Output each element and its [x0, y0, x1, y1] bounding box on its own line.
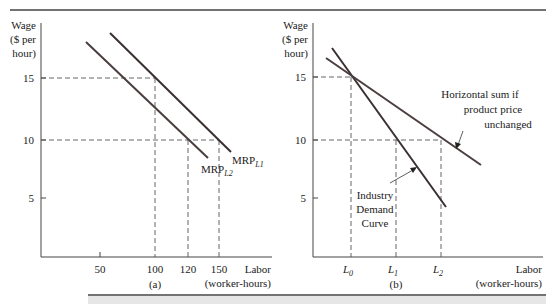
x-tick-100: 100 — [147, 263, 164, 275]
panel-b-caption: (b) — [390, 278, 403, 291]
y-axis-label-line2: ($ per — [282, 33, 308, 46]
horizontal-sum-annotation-line2: product price — [464, 103, 522, 115]
x-tick-l0: L0 — [342, 263, 353, 278]
figure: Wage ($ per hour) 15 10 5 50 100 120 150… — [0, 0, 556, 304]
y-tick-10: 10 — [295, 134, 307, 146]
y-axis-label-line1: Wage — [11, 19, 36, 31]
x-tick-50: 50 — [95, 263, 107, 275]
panel-b: Wage ($ per hour) 15 10 5 L0 L1 L2 Labor… — [282, 19, 544, 291]
x-tick-150: 150 — [211, 263, 228, 275]
bottom-band — [88, 296, 546, 304]
horizontal-sum-annotation-line3: unchanged — [484, 118, 532, 130]
y-tick-10: 10 — [23, 134, 35, 146]
x-axis-label-line2: (worker-hours) — [476, 277, 543, 290]
y-tick-15: 15 — [295, 71, 307, 83]
industry-annotation-line1: Industry — [357, 189, 394, 201]
mrp-l1-label: MRPL1 — [232, 154, 264, 169]
x-tick-l2: L2 — [432, 263, 443, 278]
panel-a-caption: (a) — [149, 278, 162, 291]
mrp-l2-curve — [86, 42, 208, 158]
x-axis-label-line1: Labor — [516, 263, 543, 275]
horizontal-sum-arrow — [458, 131, 463, 145]
mrp-l1-curve — [110, 33, 231, 152]
y-tick-5: 5 — [301, 192, 307, 204]
y-axis-label-line3: hour) — [12, 47, 36, 60]
industry-annotation-line3: Curve — [362, 217, 389, 229]
industry-annotation-line2: Demand — [356, 203, 394, 215]
industry-demand-curve — [332, 48, 446, 207]
mrp-l2-label: MRPL2 — [201, 163, 233, 178]
reference-lines — [313, 77, 441, 257]
y-tick-5: 5 — [29, 192, 35, 204]
y-tick-15: 15 — [23, 72, 35, 84]
x-tick-120: 120 — [180, 263, 197, 275]
x-axis-label-line1: Labor — [245, 263, 272, 275]
panel-a: Wage ($ per hour) 15 10 5 50 100 120 150… — [10, 19, 272, 291]
industry-arrow — [390, 170, 413, 183]
horizontal-sum-annotation-line1: Horizontal sum if — [441, 88, 519, 100]
y-axis-label-line1: Wage — [283, 19, 308, 31]
reference-lines — [41, 78, 219, 257]
arrowhead-icon — [410, 167, 417, 173]
y-axis-label-line3: hour) — [284, 47, 308, 60]
x-tick-l1: L1 — [387, 263, 398, 278]
x-axis-label-line2: (worker-hours) — [205, 277, 272, 290]
y-axis-label-line2: ($ per — [10, 33, 36, 46]
